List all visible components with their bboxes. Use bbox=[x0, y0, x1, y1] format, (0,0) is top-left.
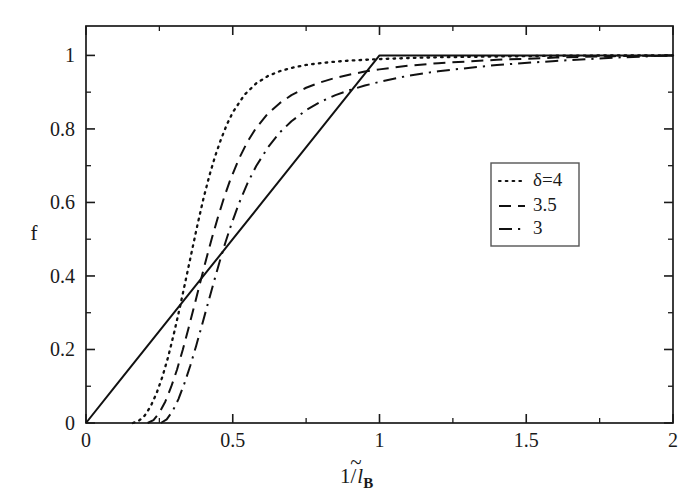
y-tick-labels: 00.20.40.60.81 bbox=[50, 44, 75, 434]
x-tick-labels: 00.511.52 bbox=[81, 429, 678, 451]
x-axis-title: 1/lB ~ bbox=[340, 450, 373, 491]
y-axis-title: f bbox=[31, 221, 38, 245]
y-tick-label: 0.4 bbox=[50, 265, 75, 287]
figure-root: 00.511.52 00.20.40.60.81 f 1/lB ~ δ=43.5… bbox=[0, 0, 693, 503]
legend-label-0: δ=4 bbox=[533, 169, 563, 190]
curve-delta-3 bbox=[161, 55, 673, 423]
data-curves bbox=[86, 55, 673, 423]
curve-linear bbox=[86, 55, 673, 423]
y-tick-label: 0.2 bbox=[50, 338, 75, 360]
y-tick-label: 0.8 bbox=[50, 118, 75, 140]
x-tick-label: 0.5 bbox=[220, 429, 245, 451]
line-chart: 00.511.52 00.20.40.60.81 f 1/lB ~ δ=43.5… bbox=[0, 0, 693, 503]
y-tick-label: 0.6 bbox=[50, 191, 75, 213]
plot-frame bbox=[86, 26, 673, 423]
legend[interactable]: δ=43.53 bbox=[491, 163, 579, 246]
curve-delta-4 bbox=[133, 55, 673, 423]
x-axis-title-subscript: B bbox=[363, 475, 373, 491]
x-axis-title-accent: ~ bbox=[350, 450, 361, 474]
legend-label-1: 3.5 bbox=[533, 194, 557, 215]
x-tick-label: 1 bbox=[375, 429, 385, 451]
x-tick-label: 1.5 bbox=[514, 429, 539, 451]
legend-label-2: 3 bbox=[533, 217, 543, 238]
y-tick-label: 0 bbox=[65, 412, 75, 434]
x-tick-label: 2 bbox=[668, 429, 678, 451]
y-tick-label: 1 bbox=[65, 44, 75, 66]
axis-ticks bbox=[86, 26, 673, 423]
x-tick-label: 0 bbox=[81, 429, 91, 451]
